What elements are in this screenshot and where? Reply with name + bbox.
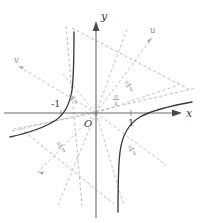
asymptote-secondary xyxy=(72,28,190,90)
ray-arrow-u-icon xyxy=(147,38,152,43)
ray-arrow-v-icon xyxy=(18,66,24,70)
asymptote-shallow xyxy=(12,88,196,131)
x-tick-label-one: 1 xyxy=(128,117,134,128)
figure-canvas: x y O -1 1 u v xyxy=(0,0,206,223)
ray-arrow-lower-left-icon xyxy=(38,172,44,176)
x-tick-label-minus-one: -1 xyxy=(51,98,60,109)
fraction-numerator: π xyxy=(113,93,119,99)
x-axis-arrow-icon xyxy=(172,110,182,117)
angle-label-near-origin: π 4 xyxy=(113,93,119,107)
fraction-denominator: 4 xyxy=(113,101,119,107)
hyperbola-figure: x y O -1 1 u v π 4 π 4 π 4 π 4 π 4 xyxy=(0,0,206,223)
y-axis-arrow-icon xyxy=(93,21,100,31)
x-axis-label: x xyxy=(186,107,193,120)
ray-label-u: u xyxy=(150,25,155,35)
ray-upper-right-steep xyxy=(96,29,127,113)
dashed-ray-group xyxy=(14,29,176,206)
origin-label: O xyxy=(84,118,92,129)
curve-group xyxy=(10,32,192,212)
asymptote-secondary-lower xyxy=(20,128,114,204)
ray-label-v: v xyxy=(14,55,19,65)
label-group: x y O -1 1 u v xyxy=(14,10,193,129)
asymptote-group xyxy=(12,26,196,206)
y-axis-label: y xyxy=(100,10,108,23)
curve-branch-upper-left xyxy=(10,32,74,137)
ray-upper-right-u xyxy=(96,38,152,113)
